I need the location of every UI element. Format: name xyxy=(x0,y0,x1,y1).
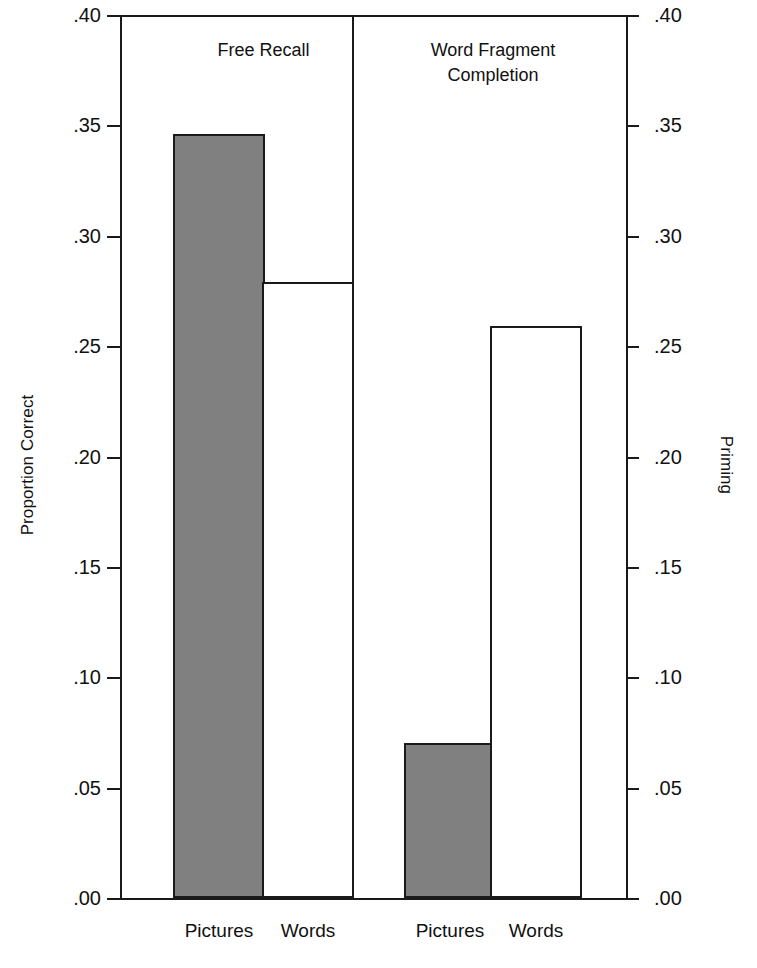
bar-chart-figure: Proportion Correct Priming .40.35.30.25.… xyxy=(0,0,757,968)
right-tick-15 xyxy=(626,567,639,569)
left-tick-25 xyxy=(107,346,120,348)
right-tick-label: .15 xyxy=(654,557,714,577)
left-tick-label: .05 xyxy=(45,778,101,798)
left-tick-label: .30 xyxy=(45,226,101,246)
left-tick-label: .00 xyxy=(45,888,101,908)
left-tick-label: .15 xyxy=(45,557,101,577)
category-label-2-words: Words xyxy=(238,920,378,942)
left-tick-15 xyxy=(107,567,120,569)
left-tick-05 xyxy=(107,788,120,790)
left-tick-10 xyxy=(107,677,120,679)
left-tick-label: .25 xyxy=(45,336,101,356)
right-tick-35 xyxy=(626,125,639,127)
group-title-line-1: Free Recall xyxy=(144,38,384,63)
right-tick-00 xyxy=(626,898,639,900)
group-title-2: Word FragmentCompletion xyxy=(373,38,613,88)
category-label-4-words: Words xyxy=(466,920,606,942)
right-tick-label: .40 xyxy=(654,5,714,25)
right-tick-05 xyxy=(626,788,639,790)
right-tick-30 xyxy=(626,236,639,238)
right-tick-label: .05 xyxy=(654,778,714,798)
left-axis-title: Proportion Correct xyxy=(18,375,38,555)
bar-free-recall-pictures xyxy=(173,134,265,898)
right-tick-label: .10 xyxy=(654,667,714,687)
right-tick-10 xyxy=(626,677,639,679)
right-tick-40 xyxy=(626,15,639,17)
left-tick-label: .40 xyxy=(45,5,101,25)
right-axis-title: Priming xyxy=(716,395,736,535)
right-tick-25 xyxy=(626,346,639,348)
group-title-1: Free Recall xyxy=(144,38,384,63)
group-title-line-2: Completion xyxy=(373,63,613,88)
plot-frame-top xyxy=(120,15,628,17)
left-tick-40 xyxy=(107,15,120,17)
left-tick-35 xyxy=(107,125,120,127)
left-tick-00 xyxy=(107,898,120,900)
right-tick-label: .20 xyxy=(654,447,714,467)
right-tick-20 xyxy=(626,457,639,459)
bar-free-recall-words xyxy=(262,282,354,898)
bar-word-fragment-completion-words xyxy=(490,326,582,898)
left-tick-20 xyxy=(107,457,120,459)
right-tick-label: .35 xyxy=(654,115,714,135)
left-tick-label: .20 xyxy=(45,447,101,467)
group-title-line-1: Word Fragment xyxy=(373,38,613,63)
bar-word-fragment-completion-pictures xyxy=(404,743,496,898)
plot-area xyxy=(120,15,628,898)
left-tick-label: .10 xyxy=(45,667,101,687)
right-tick-label: .25 xyxy=(654,336,714,356)
right-tick-label: .00 xyxy=(654,888,714,908)
plot-frame-left-axis xyxy=(120,15,122,898)
plot-frame-baseline xyxy=(112,898,636,900)
left-tick-30 xyxy=(107,236,120,238)
left-tick-label: .35 xyxy=(45,115,101,135)
right-tick-label: .30 xyxy=(654,226,714,246)
